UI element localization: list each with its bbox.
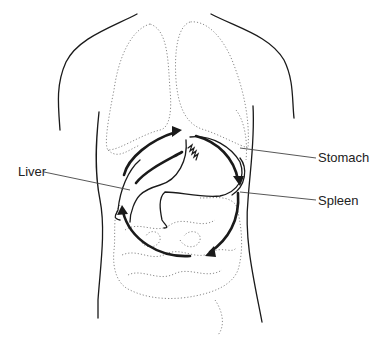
- spleen-leader-line: [240, 192, 316, 200]
- organs: [115, 137, 244, 228]
- arrow-lower-left: [123, 212, 190, 256]
- liver-label: Liver: [18, 165, 46, 178]
- leader-lines: [44, 148, 316, 200]
- arrow-upper-right: [196, 136, 238, 180]
- arrow-lower-right: [210, 193, 238, 252]
- lungs: [106, 22, 248, 160]
- arrow-inner: [136, 152, 182, 183]
- stomach-label: Stomach: [318, 151, 369, 164]
- intestines: [114, 198, 242, 335]
- spleen-label: Spleen: [318, 194, 358, 207]
- anatomy-diagram: Liver Stomach Spleen: [0, 0, 379, 355]
- body-outline: [58, 14, 294, 322]
- liver-leader-line: [44, 172, 130, 190]
